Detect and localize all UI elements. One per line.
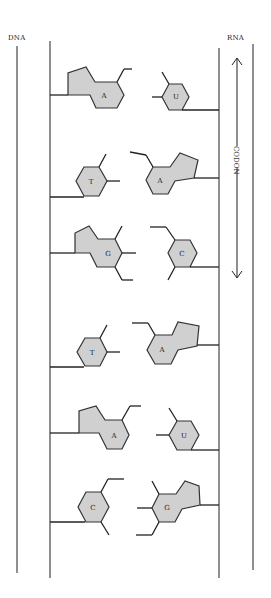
rna-base-purine: G [136, 481, 219, 535]
svg-text:T: T [90, 349, 95, 357]
svg-text:A: A [110, 432, 117, 440]
svg-text:U: U [173, 93, 179, 101]
svg-text:C: C [90, 504, 95, 512]
svg-text:A: A [100, 92, 107, 100]
codon-arrow: CODON [232, 58, 242, 278]
svg-text:U: U [181, 432, 187, 440]
svg-text:T: T [89, 178, 94, 186]
base-pair-5: A U [50, 406, 219, 450]
dna-base-pyrimidine: T [50, 154, 120, 197]
base-pair-3: G C [50, 226, 219, 280]
dna-base-purine: A [50, 67, 132, 108]
svg-text:G: G [164, 504, 170, 512]
dna-base-pyrimidine: T [50, 325, 120, 367]
dna-base-purine: G [50, 226, 136, 280]
rna-base-purine: A [130, 152, 219, 194]
dna-base-purine: A [50, 406, 141, 449]
svg-text:A: A [156, 177, 163, 185]
rna-base-purine: A [132, 322, 219, 364]
base-pair-6: C G [50, 479, 219, 535]
svg-text:A: A [158, 346, 165, 354]
rna-base-pyrimidine: U [156, 408, 219, 450]
svg-text:C: C [179, 250, 184, 258]
dna-rna-transcription-diagram: CODON A U T [0, 0, 271, 598]
svg-text:G: G [105, 250, 111, 258]
base-pair-1: A U [50, 67, 219, 110]
rna-base-pyrimidine: U [152, 72, 219, 110]
base-pair-2: T A [50, 152, 219, 197]
base-pair-4: T A [50, 322, 219, 367]
rna-base-pyrimidine: C [150, 227, 219, 280]
dna-base-pyrimidine: C [50, 479, 124, 535]
codon-label: CODON [232, 146, 240, 175]
